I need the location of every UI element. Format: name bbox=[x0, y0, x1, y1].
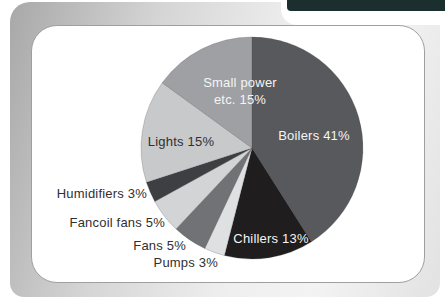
slice-label-fans: Fans 5% bbox=[133, 238, 186, 255]
slice-label-humidifiers: Humidifiers 3% bbox=[57, 186, 147, 203]
slice-label-pumps: Pumps 3% bbox=[154, 255, 218, 272]
slice-label-small-power-line2: etc. 15% bbox=[165, 92, 315, 109]
slice-label-small-power-line1: Small power bbox=[165, 75, 315, 92]
slice-label-small-power: Small power etc. 15% bbox=[165, 75, 315, 109]
pie-chart bbox=[0, 0, 445, 305]
slice-label-boilers: Boilers 41% bbox=[254, 128, 374, 145]
slice-label-fancoil-fans: Fancoil fans 5% bbox=[70, 215, 166, 232]
slice-label-lights: Lights 15% bbox=[121, 134, 241, 151]
slice-label-chillers: Chillers 13% bbox=[211, 231, 331, 248]
